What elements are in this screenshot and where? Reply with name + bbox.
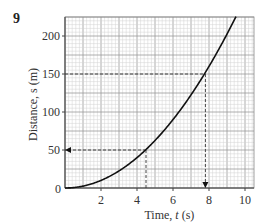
x-axis-label: Time, t (s) [144,208,194,222]
x-tick-label: 6 [170,193,176,207]
arrowhead-icon [202,182,208,188]
distance-curve [65,17,236,188]
y-axis-label: Distance, s (m) [26,68,40,141]
x-tick-label: 2 [98,193,104,207]
x-tick-label: 10 [239,193,251,207]
plot-border [65,17,254,188]
y-tick-label: 100 [42,105,60,119]
origin-label: 0 [55,182,61,196]
arrowhead-icon [65,147,71,153]
grid [65,17,254,188]
x-tick-label: 4 [134,193,140,207]
x-tick-label: 8 [206,193,212,207]
y-tick-label: 150 [42,67,60,81]
y-tick-label: 200 [42,29,60,43]
y-tick-label: 50 [48,143,60,157]
distance-time-chart: 501001502000246810Time, t (s)Distance, s… [0,0,276,223]
